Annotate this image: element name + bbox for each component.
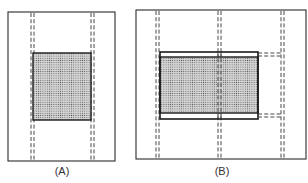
diagram-canvas bbox=[0, 0, 308, 183]
panel-a-label: (A) bbox=[55, 165, 70, 177]
panel-a bbox=[8, 12, 115, 161]
panel-b bbox=[136, 10, 306, 159]
panel-a-shaded-region bbox=[33, 53, 91, 120]
panel-b-label: (B) bbox=[215, 165, 230, 177]
panel-b-shaded-region bbox=[160, 57, 258, 113]
